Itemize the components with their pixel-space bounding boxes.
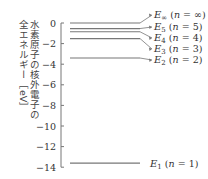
energy-level-label: E1 (n = 1) bbox=[149, 158, 198, 171]
energy-level-label: E2 (n = 2) bbox=[153, 54, 202, 67]
y-tick-label: 0 bbox=[50, 18, 56, 29]
arrow-icon bbox=[149, 26, 152, 30]
y-tick-label: −12 bbox=[36, 141, 56, 152]
leader-line bbox=[140, 32, 152, 38]
y-tick-label: −6 bbox=[42, 79, 56, 90]
y-tick-label: −14 bbox=[36, 162, 56, 173]
leader-line bbox=[140, 39, 152, 49]
y-tick-label: −10 bbox=[36, 121, 56, 132]
arrow-icon bbox=[149, 59, 152, 63]
energy-level-diagram: 0−2−4−6−8−10−12−14E∞ (n = ∞)E5 (n = 5)E4… bbox=[0, 0, 208, 179]
y-tick-label: −8 bbox=[42, 100, 56, 111]
y-tick-label: −2 bbox=[42, 38, 56, 49]
y-tick-label: −4 bbox=[42, 59, 56, 70]
